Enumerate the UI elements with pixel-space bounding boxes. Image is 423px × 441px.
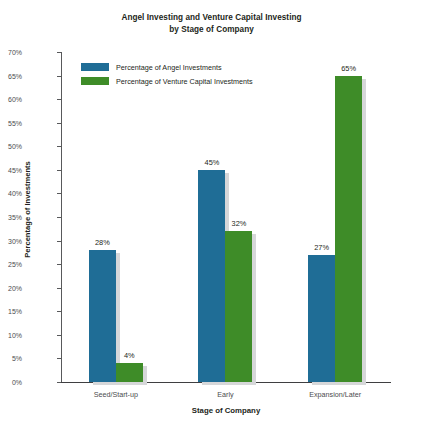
bar-fill bbox=[225, 231, 252, 382]
x-axis-title: Stage of Company bbox=[61, 406, 391, 415]
y-axis-tick-label: 70% bbox=[0, 49, 22, 56]
chart-title-line-1: Angel Investing and Venture Capital Inve… bbox=[121, 13, 301, 22]
chart-title: Angel Investing and Venture Capital Inve… bbox=[0, 12, 423, 35]
y-axis-tick-label: 30% bbox=[0, 237, 22, 244]
plot-area: 70%65%60%55%50%45%40%35%30%25%20%15%10%5… bbox=[61, 52, 390, 382]
bar-group: 28%4% bbox=[61, 52, 171, 382]
bar-fill bbox=[198, 170, 225, 382]
y-axis-tick-label: 60% bbox=[0, 96, 22, 103]
y-axis-tick-label: 25% bbox=[0, 261, 22, 268]
bar-venture-capital[interactable]: 65% bbox=[335, 76, 362, 382]
bar-venture-capital[interactable]: 4% bbox=[116, 363, 143, 382]
y-axis-tick-label: 5% bbox=[0, 355, 22, 362]
bar-angel[interactable]: 27% bbox=[308, 255, 335, 382]
bar-fill bbox=[308, 255, 335, 382]
bar-group: 27%65% bbox=[280, 52, 390, 382]
legend-swatch-icon bbox=[81, 63, 109, 71]
y-axis-tick-label: 50% bbox=[0, 143, 22, 150]
legend-label: Percentage of Venture Capital Investment… bbox=[116, 77, 253, 86]
legend-item[interactable]: Percentage of Angel Investments bbox=[81, 61, 253, 73]
y-axis-tick-label: 40% bbox=[0, 190, 22, 197]
chart-container: Angel Investing and Venture Capital Inve… bbox=[0, 0, 423, 441]
bar-value-label: 32% bbox=[232, 219, 247, 228]
y-axis-tick-label: 0% bbox=[0, 379, 22, 386]
y-axis-tick-label: 10% bbox=[0, 331, 22, 338]
y-axis-tick-label: 55% bbox=[0, 119, 22, 126]
bar-fill bbox=[335, 76, 362, 382]
chart-legend: Percentage of Angel InvestmentsPercentag… bbox=[81, 61, 253, 89]
legend-item[interactable]: Percentage of Venture Capital Investment… bbox=[81, 75, 253, 87]
x-axis-tick-label: Expansion/Later bbox=[265, 390, 405, 399]
bar-fill bbox=[116, 363, 143, 382]
bar-value-label: 28% bbox=[95, 238, 110, 247]
bar-angel[interactable]: 28% bbox=[89, 250, 116, 382]
y-axis-tick-label: 15% bbox=[0, 308, 22, 315]
bar-value-label: 65% bbox=[341, 64, 356, 73]
y-axis-tick-label: 65% bbox=[0, 72, 22, 79]
legend-swatch-icon bbox=[81, 77, 109, 85]
bar-group: 45%32% bbox=[171, 52, 281, 382]
bar-value-label: 27% bbox=[314, 243, 329, 252]
legend-label: Percentage of Angel Investments bbox=[116, 63, 221, 72]
y-axis-title: Percentage of Investments bbox=[23, 130, 32, 290]
bar-venture-capital[interactable]: 32% bbox=[225, 231, 252, 382]
y-axis-tick-label: 35% bbox=[0, 214, 22, 221]
chart-title-line-2: by Stage of Company bbox=[0, 24, 423, 36]
bar-value-label: 4% bbox=[124, 351, 135, 360]
y-axis-tick-label: 45% bbox=[0, 166, 22, 173]
y-axis-tick-label: 20% bbox=[0, 284, 22, 291]
y-axis-tick bbox=[57, 382, 61, 383]
bar-value-label: 45% bbox=[205, 158, 220, 167]
bar-fill bbox=[89, 250, 116, 382]
bar-angel[interactable]: 45% bbox=[198, 170, 225, 382]
